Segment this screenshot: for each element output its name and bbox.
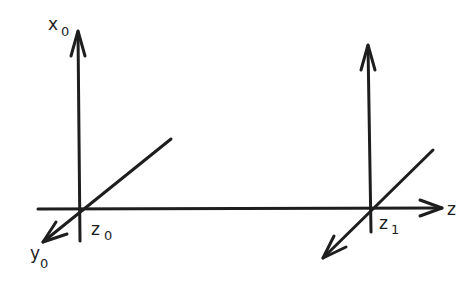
frame-1: z 1 [323, 45, 433, 258]
x1-axis [368, 46, 371, 232]
z0-label-subscript: 0 [104, 228, 112, 243]
y0-label-subscript: 0 [40, 256, 48, 271]
x0-axis [78, 32, 80, 241]
z1-label: z [379, 213, 388, 233]
coordinate-frames-diagram: x 0 y 0 z 0 z 1 z [0, 0, 476, 290]
frame-0: x 0 y 0 z 0 [30, 14, 171, 271]
y1-axis [323, 150, 433, 258]
y0-label: y [30, 243, 40, 263]
z0-label: z [91, 219, 100, 239]
y0-axis [43, 139, 171, 242]
x0-label-subscript: 0 [61, 24, 69, 39]
z-axis-label: z [447, 199, 456, 219]
x0-label: x [48, 14, 58, 34]
z1-label-subscript: 1 [391, 222, 399, 237]
